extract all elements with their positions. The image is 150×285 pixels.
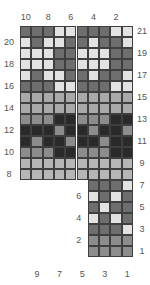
chart-cell xyxy=(99,202,110,213)
chart-cell xyxy=(43,48,54,59)
chart-cell xyxy=(54,158,65,169)
chart-cell xyxy=(20,114,31,125)
chart-cell xyxy=(43,136,54,147)
chart-cell xyxy=(77,81,88,92)
chart-cell xyxy=(20,81,31,92)
chart-cell xyxy=(110,213,121,224)
chart-cell xyxy=(99,103,110,114)
chart-cell xyxy=(31,103,42,114)
chart-cell xyxy=(99,246,110,257)
chart-cell xyxy=(54,70,65,81)
chart-cell xyxy=(43,103,54,114)
chart-cell xyxy=(122,224,133,235)
chart-cell xyxy=(43,158,54,169)
chart-cell xyxy=(20,103,31,114)
chart-cell xyxy=(110,37,121,48)
column-label-bottom: 9 xyxy=(29,270,45,279)
chart-cell xyxy=(88,235,99,246)
chart-cell xyxy=(31,114,42,125)
chart-cell xyxy=(122,92,133,103)
chart-cell xyxy=(110,114,121,125)
column-label-top: 4 xyxy=(85,13,101,22)
chart-cell xyxy=(88,191,99,202)
chart-cell xyxy=(31,158,42,169)
chart-cell xyxy=(99,48,110,59)
chart-cell xyxy=(122,59,133,70)
row-label-right: 21 xyxy=(134,27,150,36)
chart-cell xyxy=(77,59,88,70)
chart-cell xyxy=(99,114,110,125)
column-label-bottom: 5 xyxy=(74,270,90,279)
row-label-right: 11 xyxy=(134,137,150,146)
chart-cell xyxy=(43,59,54,70)
chart-cell xyxy=(20,147,31,158)
chart-cell xyxy=(65,158,76,169)
chart-cell xyxy=(88,92,99,103)
chart-cell xyxy=(110,70,121,81)
chart-cell xyxy=(43,37,54,48)
chart-cell xyxy=(31,136,42,147)
chart-cell xyxy=(99,191,110,202)
chart-cell xyxy=(31,26,42,37)
row-label-right: 15 xyxy=(134,93,150,102)
row-label-right: 5 xyxy=(134,203,150,212)
chart-cell xyxy=(54,26,65,37)
chart-cell xyxy=(122,125,133,136)
chart-cell xyxy=(65,125,76,136)
chart-cell xyxy=(31,81,42,92)
chart-cell xyxy=(122,213,133,224)
chart-cell xyxy=(88,81,99,92)
chart-cell xyxy=(54,125,65,136)
chart-cell xyxy=(99,136,110,147)
row-label-left: 10 xyxy=(1,148,17,157)
column-label-top: 8 xyxy=(40,13,56,22)
chart-cell xyxy=(43,26,54,37)
chart-cell xyxy=(110,169,121,180)
chart-cell xyxy=(77,37,88,48)
row-label-right: 9 xyxy=(134,159,150,168)
chart-cell xyxy=(65,59,76,70)
chart-cell xyxy=(110,103,121,114)
chart-cell xyxy=(88,246,99,257)
chart-cell xyxy=(54,114,65,125)
chart-cell xyxy=(110,224,121,235)
row-label-right: 17 xyxy=(134,71,150,80)
chart-cell xyxy=(88,158,99,169)
chart-cell xyxy=(54,92,65,103)
chart-cell xyxy=(110,48,121,59)
chart-cell xyxy=(31,37,42,48)
chart-cell xyxy=(122,48,133,59)
chart-cell xyxy=(110,92,121,103)
chart-cell xyxy=(77,26,88,37)
chart-cell xyxy=(65,37,76,48)
chart-cell xyxy=(54,169,65,180)
chart-cell xyxy=(43,114,54,125)
chart-cell xyxy=(122,158,133,169)
chart-cell xyxy=(122,202,133,213)
chart-cell xyxy=(43,81,54,92)
chart-cell xyxy=(20,70,31,81)
chart-cell xyxy=(65,48,76,59)
chart-cell xyxy=(99,125,110,136)
chart-cell xyxy=(88,180,99,191)
chart-cell xyxy=(20,48,31,59)
chart-cell xyxy=(43,147,54,158)
row-label-left: 18 xyxy=(1,60,17,69)
chart-cell xyxy=(99,169,110,180)
row-label-left: 20 xyxy=(1,38,17,47)
chart-cell xyxy=(77,114,88,125)
chart-cell xyxy=(88,70,99,81)
chart-cell xyxy=(77,125,88,136)
chart-cell xyxy=(65,26,76,37)
chart-cell xyxy=(77,136,88,147)
chart-cell xyxy=(31,169,42,180)
chart-cell xyxy=(31,92,42,103)
chart-cell xyxy=(65,169,76,180)
chart-cell xyxy=(77,158,88,169)
chart-cell xyxy=(122,136,133,147)
chart-cell xyxy=(20,26,31,37)
chart-cell xyxy=(122,169,133,180)
chart-cell xyxy=(54,59,65,70)
chart-cell xyxy=(99,70,110,81)
row-label-right: 7 xyxy=(134,181,150,190)
